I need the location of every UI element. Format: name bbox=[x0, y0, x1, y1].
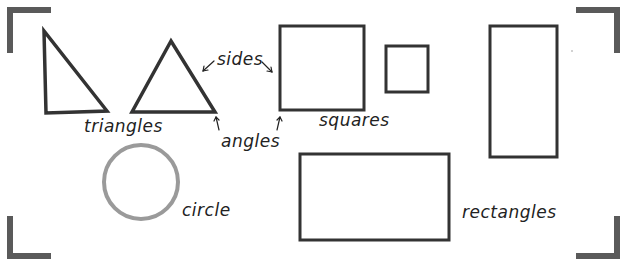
wide-rectangle bbox=[300, 154, 449, 240]
corner-bracket-bottom-right bbox=[576, 216, 617, 256]
label-triangles: triangles bbox=[84, 118, 163, 135]
sides-arrow-left bbox=[203, 61, 214, 71]
sides-arrow-right bbox=[262, 62, 272, 72]
label-sides: sides bbox=[217, 51, 263, 68]
angles-arrow-left bbox=[214, 117, 219, 130]
annotation-arrows bbox=[203, 61, 282, 130]
angles-arrow-right bbox=[277, 117, 282, 130]
circle-shape bbox=[104, 145, 178, 219]
label-angles: angles bbox=[221, 133, 280, 150]
label-rectangles: rectangles bbox=[462, 204, 556, 221]
speck-dot bbox=[571, 50, 573, 52]
corner-bracket-top-right bbox=[576, 10, 617, 53]
right-triangle bbox=[44, 31, 107, 113]
equilateral-triangle bbox=[132, 41, 215, 112]
label-squares: squares bbox=[319, 112, 390, 129]
label-circle: circle bbox=[182, 202, 231, 219]
small-square bbox=[386, 46, 428, 92]
large-square bbox=[280, 26, 364, 110]
tall-rectangle bbox=[490, 26, 557, 157]
corner-bracket-bottom-left bbox=[10, 216, 51, 256]
